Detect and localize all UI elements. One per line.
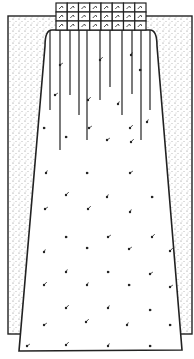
smocking-cell bbox=[135, 21, 146, 30]
skirt-pattern-illustration bbox=[0, 0, 194, 359]
smocking-cell bbox=[135, 3, 146, 12]
smocking-cell bbox=[67, 12, 78, 21]
smocking-cell bbox=[112, 21, 123, 30]
smocking-cell bbox=[79, 3, 90, 12]
smocking-cell bbox=[101, 21, 112, 30]
smocking-cell bbox=[90, 21, 101, 30]
smocking-cell bbox=[79, 12, 90, 21]
smocking-cell bbox=[56, 21, 67, 30]
smocking-cell bbox=[135, 12, 146, 21]
smocking-grid bbox=[56, 3, 146, 30]
smocking-cell bbox=[124, 3, 135, 12]
smocking-cell bbox=[112, 3, 123, 12]
smocking-cell bbox=[67, 21, 78, 30]
smocking-cell bbox=[56, 12, 67, 21]
illustration-canvas bbox=[0, 0, 194, 359]
smocking-cell bbox=[124, 12, 135, 21]
smocking-cell bbox=[79, 21, 90, 30]
smocking-cell bbox=[90, 12, 101, 21]
smocking-cell bbox=[90, 3, 101, 12]
smocking-cell bbox=[56, 3, 67, 12]
smocking-cell bbox=[101, 3, 112, 12]
smocking-cell bbox=[67, 3, 78, 12]
smocking-cell bbox=[101, 12, 112, 21]
smocking-cell bbox=[124, 21, 135, 30]
smocking-cell bbox=[112, 12, 123, 21]
